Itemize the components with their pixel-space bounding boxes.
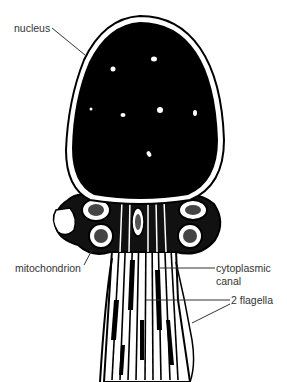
- mitochondrion-left-lower: [89, 224, 113, 248]
- label-flagella: 2 flagella: [231, 294, 273, 306]
- label-nucleus: nucleus: [14, 22, 50, 34]
- mitochondrion-right-upper: [179, 200, 207, 220]
- mitochondrion-right-lower: [178, 224, 202, 248]
- nucleus-leader: [52, 28, 85, 55]
- label-cytoplasmic: cytoplasmic: [216, 262, 271, 274]
- flagella-leader-lower: [192, 304, 230, 323]
- label-canal: canal: [216, 275, 241, 287]
- nucleus-head: [66, 16, 224, 204]
- sperm-illustration: [0, 0, 287, 382]
- label-mitochondrion: mitochondrion: [15, 262, 81, 274]
- sperm-diagram: nucleus mitochondrion cytoplasmic canal …: [0, 0, 287, 382]
